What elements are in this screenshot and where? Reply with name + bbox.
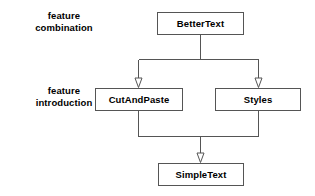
row-label-feature-combination: feature combination: [22, 10, 106, 34]
row-label-line-1: feature: [22, 85, 106, 97]
node-better-text-label: BetterText: [177, 18, 224, 29]
row-label-feature-introduction: feature introduction: [22, 85, 106, 109]
node-styles-label: Styles: [244, 94, 273, 105]
arrowhead-cut-and-paste: [135, 78, 142, 88]
row-label-line-2: combination: [22, 22, 106, 34]
row-label-line-1: feature: [22, 10, 106, 22]
node-cut-and-paste[interactable]: CutAndPaste: [95, 88, 183, 111]
node-styles[interactable]: Styles: [215, 88, 301, 111]
node-better-text[interactable]: BetterText: [157, 12, 244, 35]
node-cut-and-paste-label: CutAndPaste: [109, 94, 170, 105]
diagram-canvas: feature combination feature introduction…: [0, 0, 315, 196]
row-label-line-2: introduction: [22, 97, 106, 109]
node-simple-text-label: SimpleText: [176, 169, 227, 180]
node-simple-text[interactable]: SimpleText: [158, 163, 244, 186]
arrowhead-styles: [255, 78, 262, 88]
arrowhead-simple-text: [197, 153, 204, 163]
